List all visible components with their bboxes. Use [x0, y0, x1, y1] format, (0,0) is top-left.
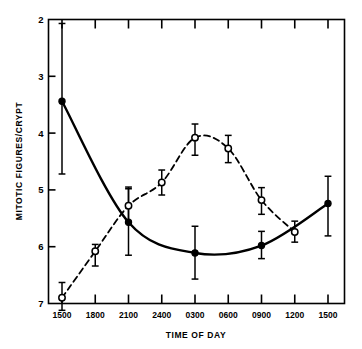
x-tick-label-7: 1200 — [285, 310, 304, 320]
y-tick-label-5: 4 — [38, 128, 44, 139]
figure-container: 765432 150018002100240003000600090012001… — [0, 0, 362, 349]
data-series-layer — [59, 23, 332, 310]
data-point-open-circle — [59, 295, 65, 301]
x-tick-label-3: 2400 — [152, 310, 171, 320]
y-tick-label-6: 3 — [38, 71, 43, 82]
x-tick-label-5: 0600 — [219, 310, 238, 320]
mitotic-figures-chart: 765432 150018002100240003000600090012001… — [0, 0, 362, 349]
x-tick-label-4: 0300 — [186, 310, 205, 320]
x-tick-label-6: 0900 — [252, 310, 271, 320]
x-tick-label-2: 2100 — [119, 310, 138, 320]
y-axis-ticks — [49, 76, 56, 246]
data-point-open-circle — [192, 134, 198, 140]
curve-dashed-open-circle-series — [62, 135, 295, 297]
x-axis-tick-labels: 150018002100240003000600090012001500 — [53, 310, 338, 320]
x-axis-top-ticks — [62, 20, 328, 29]
series-dashed-open-circle-series — [59, 124, 299, 310]
y-tick-label-2: 7 — [38, 298, 43, 309]
data-point-filled-circle — [192, 250, 198, 256]
data-point-open-circle — [159, 179, 165, 185]
data-point-filled-circle — [59, 98, 65, 104]
data-point-open-circle — [92, 248, 98, 254]
x-axis-title: TIME OF DAY — [166, 330, 227, 340]
y-tick-label-3: 6 — [38, 241, 43, 252]
data-point-open-circle — [225, 145, 231, 151]
y-axis-tick-labels: 765432 — [38, 14, 44, 309]
x-tick-label-1: 1800 — [86, 310, 105, 320]
data-point-filled-circle — [258, 242, 264, 248]
y-axis-title: MITOTIC FIGURES/CRYPT — [14, 102, 24, 221]
y-tick-label-7: 2 — [38, 14, 43, 25]
x-axis-bottom-ticks — [62, 295, 328, 304]
y-tick-label-4: 5 — [38, 184, 44, 195]
data-point-open-circle — [125, 203, 131, 209]
x-tick-label-8: 1500 — [319, 310, 338, 320]
data-point-open-circle — [292, 229, 298, 235]
data-point-filled-circle — [325, 200, 331, 206]
data-point-open-circle — [258, 197, 264, 203]
